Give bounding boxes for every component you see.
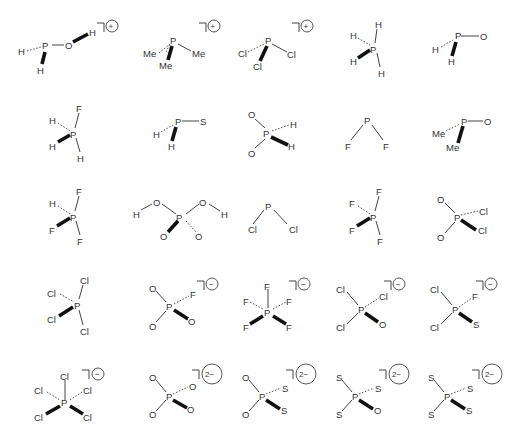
atom-label: H — [375, 19, 382, 30]
atom-label-center: P — [70, 129, 76, 140]
atom-label: H — [168, 141, 175, 152]
atom-label: F — [377, 236, 383, 247]
molecule-10: P Me Me O — [432, 116, 491, 153]
atom-label: Cl — [80, 326, 89, 337]
atom-label: H — [288, 141, 295, 152]
bracket-icon — [292, 23, 299, 32]
svg-text:−: − — [396, 280, 401, 289]
atom-label: O — [149, 283, 156, 294]
atom-label: H — [432, 44, 439, 55]
atom-label: O — [149, 321, 156, 332]
atom-label: F — [264, 281, 270, 292]
atom-label-center: P — [370, 212, 376, 223]
molecule-21: P Cl Cl Cl Cl Cl − — [34, 368, 104, 423]
atom-label: Cl — [248, 224, 257, 235]
atom-label: O — [149, 409, 156, 420]
atom-label-center: P — [263, 128, 269, 139]
molecule-14: P F F F F — [349, 186, 383, 247]
atom-label: Cl — [379, 291, 388, 302]
molecule-8: P O O H H — [248, 109, 297, 159]
atom-label: O — [480, 31, 487, 42]
atom-label: H — [18, 46, 25, 57]
molecule-25: P S S S S 2− — [428, 364, 502, 420]
svg-text:+: + — [109, 22, 114, 31]
atom-label: S — [281, 405, 287, 416]
atom-label-center: P — [358, 304, 364, 315]
molecule-12: P H O O H O O — [133, 197, 228, 242]
molecule-1: H P O H H + — [18, 20, 118, 76]
atom-label: H — [448, 56, 455, 67]
molecule-7: P H H S — [153, 116, 206, 152]
atom-label: Cl — [47, 288, 56, 299]
bracket-icon — [199, 23, 206, 32]
molecule-20: P Cl F Cl S − — [430, 278, 497, 333]
svg-text:2−: 2− — [205, 370, 214, 379]
atom-label: S — [467, 383, 473, 394]
atom-label: S — [375, 383, 381, 394]
atom-label: S — [282, 383, 288, 394]
bracket-icon — [472, 370, 479, 379]
bracket-icon — [289, 281, 296, 290]
atom-label: Cl — [478, 225, 487, 236]
atom-label-center: P — [42, 40, 48, 51]
atom-label-center: P — [364, 115, 370, 126]
svg-text:+: + — [211, 22, 216, 31]
atom-label: S — [428, 372, 434, 383]
atom-label: Cl — [83, 412, 92, 423]
atom-label: H — [89, 27, 96, 38]
atom-label: S — [336, 409, 342, 420]
molecule-19: P Cl Cl Cl O − — [336, 278, 405, 333]
atom-label: Cl — [336, 322, 345, 333]
atom-label: O — [242, 372, 249, 383]
atom-label: O — [187, 404, 194, 415]
atom-label: O — [188, 316, 195, 327]
atom-label: Me — [159, 60, 172, 71]
svg-text:2−: 2− — [485, 370, 494, 379]
atom-label: Cl — [34, 412, 43, 423]
svg-text:2−: 2− — [299, 370, 308, 379]
atom-label: Cl — [289, 224, 298, 235]
atom-label: F — [76, 186, 82, 197]
atom-label: Cl — [80, 275, 89, 286]
bracket-icon — [97, 23, 104, 32]
atom-label-center: P — [61, 397, 67, 408]
atom-label: H — [290, 119, 297, 130]
atom-label: O — [484, 116, 491, 127]
bracket-icon — [286, 370, 293, 379]
atom-label: F — [76, 103, 82, 114]
atom-label-center: P — [452, 304, 458, 315]
atom-label: O — [195, 231, 202, 242]
atom-label-center: P — [264, 307, 270, 318]
svg-text:−: − — [301, 280, 306, 289]
svg-text:−: − — [488, 280, 493, 289]
svg-text:−: − — [95, 370, 100, 379]
atom-label-center: P — [74, 300, 80, 311]
atom-label: H — [378, 68, 385, 79]
atom-label: H — [77, 153, 84, 164]
atom-label: O — [189, 381, 196, 392]
atom-label: Cl — [336, 284, 345, 295]
atom-label-center: P — [352, 391, 358, 402]
atom-label: F — [376, 186, 382, 197]
atom-label: O — [248, 109, 255, 120]
molecule-24: P S S S O 2− — [336, 364, 409, 420]
svg-text:−: − — [209, 280, 214, 289]
atom-label-center: P — [444, 391, 450, 402]
atom-label: H — [37, 65, 44, 76]
atom-label: O — [199, 197, 206, 208]
atom-label: H — [153, 129, 160, 140]
atom-label: O — [374, 405, 381, 416]
atom-label: Me — [432, 128, 445, 139]
atom-label: H — [350, 56, 357, 67]
atom-label: F — [349, 198, 355, 209]
molecule-17: P O O F O − — [149, 278, 218, 332]
molecule-4: P H H H H — [350, 19, 385, 79]
atom-label-center: P — [176, 212, 182, 223]
atom-label: S — [473, 319, 479, 330]
atom-label: O — [248, 148, 255, 159]
atom-label: F — [383, 141, 389, 152]
atom-label: Me — [446, 142, 459, 153]
atom-label: H — [133, 209, 140, 220]
atom-label: F — [472, 291, 478, 302]
atom-label: O — [160, 231, 167, 242]
